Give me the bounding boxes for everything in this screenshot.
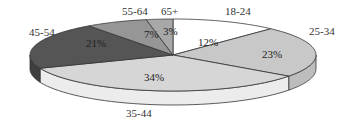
percentage-label: 3% — [163, 25, 178, 37]
category-label: 55-64 — [122, 5, 148, 17]
percentage-label: 21% — [86, 37, 106, 49]
percentage-label: 34% — [144, 71, 164, 83]
percentage-label: 12% — [198, 36, 218, 48]
category-label: 35-44 — [126, 107, 152, 119]
category-label: 25-34 — [309, 25, 335, 37]
percentage-label: 7% — [144, 28, 159, 40]
percentage-label: 23% — [262, 48, 282, 60]
category-label: 18-24 — [225, 5, 251, 17]
pie-chart: 18-2412%25-3423%35-4434%45-5421%55-647%6… — [0, 0, 346, 124]
category-label: 45-54 — [29, 26, 55, 38]
category-label: 65+ — [161, 5, 178, 17]
